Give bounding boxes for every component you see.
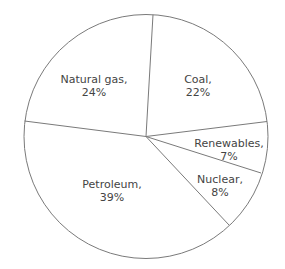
slice-label-nuclear: Nuclear, 8% (197, 173, 243, 199)
slice-label-petroleum: Petroleum, 39% (82, 178, 141, 204)
slice-label-name: Natural gas, (60, 73, 127, 86)
slice-label-name: Nuclear, (197, 173, 243, 186)
slice-label-value: 8% (197, 186, 243, 199)
slice-label-value: 24% (60, 86, 127, 99)
slice-label-value: 22% (184, 86, 212, 99)
pie-chart (0, 0, 285, 269)
slice-label-renewables: Renewables, 7% (194, 137, 263, 163)
slice-label-value: 7% (194, 150, 263, 163)
slice-label-value: 39% (82, 191, 141, 204)
slice-label-name: Renewables, (194, 137, 263, 150)
slice-label-natural-gas: Natural gas, 24% (60, 73, 127, 99)
slice-label-name: Coal, (184, 73, 212, 86)
slice-label-name: Petroleum, (82, 178, 141, 191)
slice-label-coal: Coal, 22% (184, 73, 212, 99)
